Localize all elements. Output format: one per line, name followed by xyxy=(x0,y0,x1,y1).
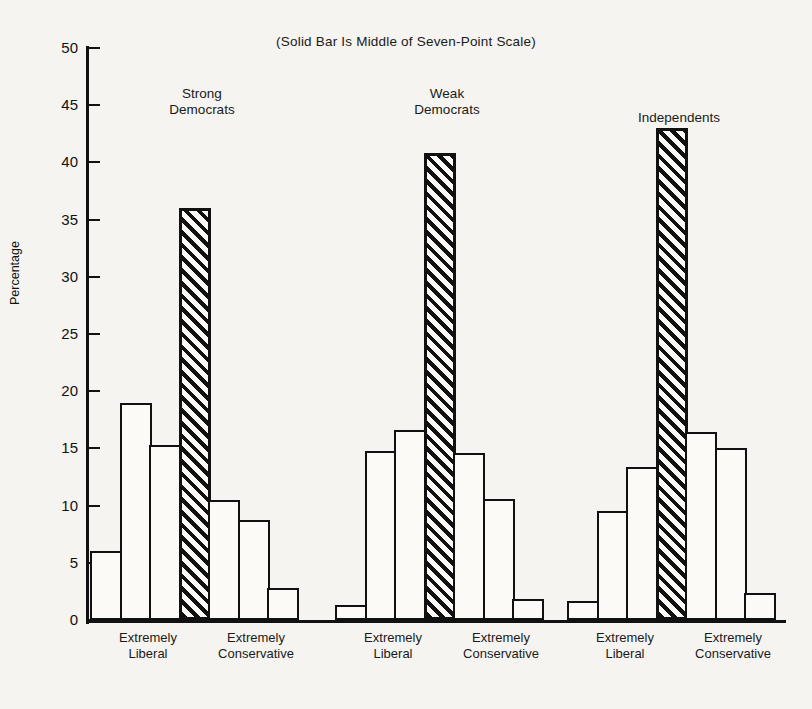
x-label-liberal: ExtremelyLiberal xyxy=(565,630,685,663)
y-tick-label: 5 xyxy=(38,555,78,570)
bar-middle-highlighted xyxy=(179,208,211,620)
bars-container xyxy=(90,48,314,620)
x-label-liberal-line1: Extremely xyxy=(333,630,453,646)
x-label-conservative-line1: Extremely xyxy=(196,630,316,646)
bar xyxy=(120,403,152,620)
x-label-liberal-line1: Extremely xyxy=(565,630,685,646)
x-label-conservative-line1: Extremely xyxy=(441,630,561,646)
y-tick-label: 50 xyxy=(38,40,78,55)
bar xyxy=(365,451,397,620)
x-label-conservative: ExtremelyConservative xyxy=(673,630,793,663)
y-tick-label: 20 xyxy=(38,383,78,398)
bar-middle-highlighted xyxy=(424,153,456,620)
x-label-liberal: ExtremelyLiberal xyxy=(88,630,208,663)
y-tick-label: 40 xyxy=(38,154,78,169)
chart-figure: (Solid Bar Is Middle of Seven-Point Scal… xyxy=(0,0,812,709)
bar xyxy=(238,520,270,620)
x-label-conservative: ExtremelyConservative xyxy=(441,630,561,663)
x-label-liberal-line2: Liberal xyxy=(565,646,685,662)
bar-group: StrongDemocrats xyxy=(90,48,314,620)
y-tick-label: 0 xyxy=(38,612,78,627)
bar xyxy=(149,445,181,620)
bar-group: WeakDemocrats xyxy=(335,48,559,620)
bar xyxy=(394,430,426,620)
y-tick-label: 15 xyxy=(38,440,78,455)
x-label-conservative-line1: Extremely xyxy=(673,630,793,646)
bar xyxy=(597,511,629,620)
bar xyxy=(512,599,544,620)
x-axis-line xyxy=(86,620,786,623)
bar xyxy=(267,588,299,620)
y-tick-label: 45 xyxy=(38,97,78,112)
y-tick-label: 35 xyxy=(38,212,78,227)
chart-title: (Solid Bar Is Middle of Seven-Point Scal… xyxy=(0,34,812,49)
x-label-liberal: ExtremelyLiberal xyxy=(333,630,453,663)
bar xyxy=(483,499,515,620)
bar xyxy=(744,593,776,620)
bar xyxy=(453,453,485,620)
bar xyxy=(685,432,717,620)
bar xyxy=(626,467,658,620)
bars-container xyxy=(335,48,559,620)
y-axis-line xyxy=(86,46,89,624)
bars-container xyxy=(567,48,791,620)
x-label-conservative-line2: Conservative xyxy=(196,646,316,662)
x-label-liberal-line2: Liberal xyxy=(333,646,453,662)
y-tick-label: 25 xyxy=(38,326,78,341)
y-axis-title: Percentage xyxy=(8,241,22,305)
y-tick-label: 30 xyxy=(38,269,78,284)
bar xyxy=(208,500,240,620)
x-label-conservative-line2: Conservative xyxy=(673,646,793,662)
bar-group: Independents xyxy=(567,48,791,620)
bar xyxy=(335,605,367,620)
bar xyxy=(715,448,747,620)
bar xyxy=(567,601,599,620)
y-tick-label: 10 xyxy=(38,498,78,513)
x-label-conservative: ExtremelyConservative xyxy=(196,630,316,663)
x-label-liberal-line2: Liberal xyxy=(88,646,208,662)
bar-middle-highlighted xyxy=(656,128,688,620)
x-label-conservative-line2: Conservative xyxy=(441,646,561,662)
x-label-liberal-line1: Extremely xyxy=(88,630,208,646)
bar xyxy=(90,551,122,620)
